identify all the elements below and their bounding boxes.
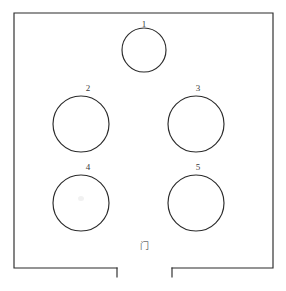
table-label-3: 3 — [188, 84, 208, 93]
table-circle-1[interactable] — [122, 28, 166, 72]
table-label-2: 2 — [78, 84, 98, 93]
table-circle-3[interactable] — [168, 96, 224, 152]
table-circle-5[interactable] — [168, 175, 224, 231]
table-label-5: 5 — [188, 163, 208, 172]
room-layout-diagram: 12345 门 — [0, 0, 286, 291]
room-outline — [14, 13, 273, 268]
table-circle-4[interactable] — [53, 175, 109, 231]
table-label-1: 1 — [134, 20, 154, 29]
door-mark: 门 — [133, 242, 155, 251]
scan-smudge — [78, 196, 84, 201]
table-circle-2[interactable] — [53, 96, 109, 152]
table-label-4: 4 — [78, 163, 98, 172]
